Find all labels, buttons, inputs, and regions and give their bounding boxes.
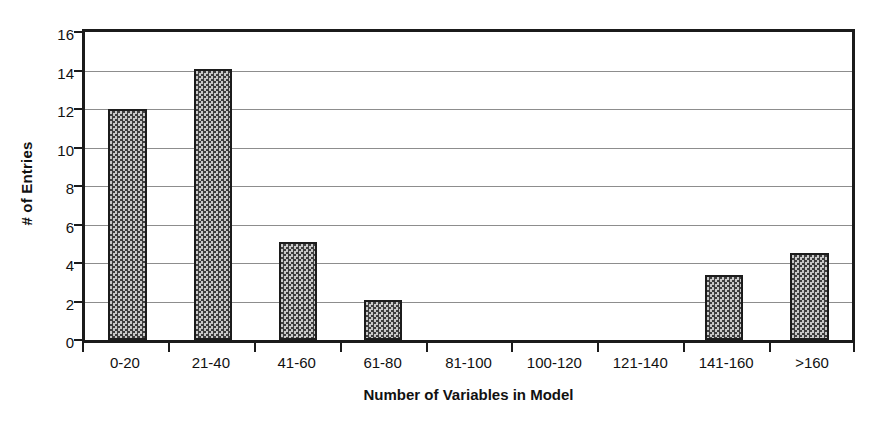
bar-category	[426, 32, 511, 340]
x-tick-mark	[853, 343, 855, 352]
x-tick-mark	[426, 343, 428, 352]
bar	[705, 275, 743, 340]
y-tick-mark	[74, 262, 83, 264]
y-tick-label: 10	[34, 141, 74, 158]
x-tick-label: 21-40	[168, 354, 254, 371]
y-tick-label: 12	[34, 103, 74, 120]
bar-category	[85, 32, 170, 340]
bar-category	[596, 32, 681, 340]
x-tick-label: >160	[769, 354, 855, 371]
x-axis-ticks	[82, 343, 855, 352]
y-tick-mark	[74, 108, 83, 110]
bar-series	[85, 32, 852, 340]
bar-category	[341, 32, 426, 340]
bar	[279, 242, 317, 340]
y-tick-label: 14	[34, 64, 74, 81]
x-tick-label: 141-160	[683, 354, 769, 371]
y-tick-label: 4	[34, 257, 74, 274]
y-tick-mark	[74, 301, 83, 303]
x-tick-label: 0-20	[82, 354, 168, 371]
x-tick-label: 121-140	[597, 354, 683, 371]
y-tick-mark	[74, 147, 83, 149]
x-tick-mark	[769, 343, 771, 352]
y-tick-label: 2	[34, 295, 74, 312]
x-tick-label: 41-60	[254, 354, 340, 371]
x-tick-mark	[597, 343, 599, 352]
y-tick-label: 0	[34, 334, 74, 351]
y-tick-mark	[74, 70, 83, 72]
y-tick-mark	[74, 185, 83, 187]
x-tick-mark	[511, 343, 513, 352]
y-axis-tick-labels: 1614121086420	[34, 31, 74, 341]
bar-chart: # of Entries 1614121086420 0-2021-4041-6…	[0, 0, 874, 424]
plot-area	[82, 29, 855, 343]
bar	[108, 109, 146, 340]
y-tick-mark	[74, 339, 83, 341]
bar	[194, 69, 232, 340]
y-tick-label: 8	[34, 180, 74, 197]
x-tick-mark	[254, 343, 256, 352]
y-tick-mark	[74, 224, 83, 226]
bar	[364, 300, 402, 340]
x-axis-title: Number of Variables in Model	[82, 386, 855, 403]
y-tick-label: 6	[34, 218, 74, 235]
x-tick-label: 81-100	[426, 354, 512, 371]
x-tick-mark	[168, 343, 170, 352]
bar-category	[767, 32, 852, 340]
bar-category	[682, 32, 767, 340]
x-tick-mark	[82, 343, 84, 352]
x-tick-mark	[340, 343, 342, 352]
x-axis-tick-labels: 0-2021-4041-6061-8081-100100-120121-1401…	[82, 354, 855, 371]
bar-category	[255, 32, 340, 340]
y-tick-mark	[74, 31, 83, 33]
x-tick-label: 61-80	[340, 354, 426, 371]
bar	[790, 253, 828, 340]
y-tick-label: 16	[34, 26, 74, 43]
x-tick-mark	[683, 343, 685, 352]
bar-category	[170, 32, 255, 340]
x-tick-label: 100-120	[511, 354, 597, 371]
y-axis-title: # of Entries	[18, 114, 35, 254]
bar-category	[511, 32, 596, 340]
